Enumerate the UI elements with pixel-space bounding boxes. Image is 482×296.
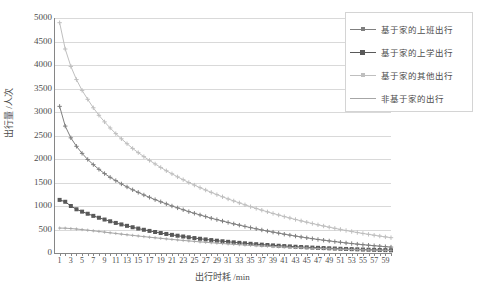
series-marker (198, 185, 202, 189)
series-marker (164, 232, 168, 236)
x-tick-mark (166, 253, 167, 256)
series-marker (75, 227, 78, 230)
x-tick-label: 59 (381, 256, 389, 266)
series-marker (232, 222, 236, 226)
x-tick-mark (296, 253, 297, 256)
legend-item-0[interactable]: 基于家的上班出行 (350, 18, 468, 41)
x-tick-mark (178, 253, 179, 256)
x-tick-mark (273, 253, 274, 256)
series-marker (254, 227, 258, 231)
series-marker (260, 228, 264, 232)
series-marker (154, 236, 157, 239)
x-tick-label: 9 (103, 256, 107, 266)
x-tick-mark (324, 253, 325, 256)
series-marker (361, 231, 365, 235)
series-marker (187, 235, 191, 239)
x-tick-mark (116, 253, 117, 256)
y-axis-ticks: 0500100015002000250030003500400045005000 (8, 0, 52, 296)
chart-legend: 基于家的上班出行基于家的上学出行基于家的其他出行非基于家的出行 (345, 12, 473, 112)
x-tick-mark (245, 253, 246, 256)
x-tick-label: 27 (202, 256, 210, 266)
x-tick-mark (262, 253, 263, 256)
series-marker (237, 201, 241, 205)
x-tick-mark (239, 253, 240, 256)
x-axis-ticks: 1357911131517192123252729313335373941434… (54, 256, 391, 270)
legend-item-3[interactable]: 非基于家的出行 (350, 87, 468, 110)
x-tick-mark (127, 253, 128, 256)
series-marker (148, 236, 151, 239)
series-marker (170, 204, 174, 208)
x-tick-label: 31 (224, 256, 232, 266)
series-marker (203, 214, 207, 218)
legend-label: 非基于家的出行 (381, 94, 444, 104)
x-tick-mark (301, 253, 302, 256)
series-marker (305, 220, 309, 224)
series-marker (164, 169, 168, 173)
x-tick-mark (161, 253, 162, 256)
x-tick-mark (206, 253, 207, 256)
series-marker (355, 230, 359, 234)
series-marker (131, 225, 135, 229)
legend-label: 基于家的上学出行 (381, 48, 453, 58)
series-marker (243, 203, 247, 207)
x-tick-mark (346, 253, 347, 256)
series-marker (305, 236, 309, 240)
x-tick-label: 13 (123, 256, 131, 266)
series-marker (170, 172, 174, 176)
x-tick-mark (211, 253, 212, 256)
series-marker (159, 231, 163, 235)
legend-item-1[interactable]: 基于家的上学出行 (350, 41, 468, 64)
x-tick-mark (172, 253, 173, 256)
y-axis-line (54, 18, 55, 253)
legend-item-2[interactable]: 基于家的其他出行 (350, 64, 468, 87)
series-marker (69, 227, 72, 230)
x-tick-mark (155, 253, 156, 256)
series-marker (103, 218, 107, 222)
series-marker (91, 214, 95, 218)
x-tick-label: 53 (348, 256, 356, 266)
series-canvas (54, 18, 391, 253)
x-tick-mark (133, 253, 134, 256)
series-marker (265, 210, 269, 214)
series-marker (130, 188, 134, 192)
chart-container: 0500100015002000250030003500400045005000… (0, 0, 482, 296)
series-marker (114, 178, 118, 182)
series-marker (338, 240, 342, 244)
series-marker (321, 238, 325, 242)
series-marker (248, 204, 252, 208)
series-marker (187, 180, 191, 184)
series-marker (125, 233, 128, 236)
series-marker (153, 230, 157, 234)
x-tick-label: 7 (91, 256, 95, 266)
series-marker (248, 225, 252, 229)
series-marker (338, 227, 342, 231)
legend-swatch-icon (350, 94, 376, 104)
plot-area (54, 18, 391, 253)
x-tick-mark (329, 253, 330, 256)
x-tick-mark (363, 253, 364, 256)
series-marker (125, 224, 129, 228)
series-marker (220, 219, 224, 223)
series-marker (164, 202, 168, 206)
y-tick-label: 2000 (14, 154, 52, 163)
series-marker (366, 243, 370, 247)
x-tick-label: 23 (179, 256, 187, 266)
series-marker (181, 235, 185, 239)
series-marker (63, 200, 67, 204)
y-tick-label: 1000 (14, 201, 52, 210)
series-marker (310, 236, 314, 240)
series-marker (288, 233, 292, 237)
x-tick-mark (318, 253, 319, 256)
y-tick-label: 2500 (14, 131, 52, 140)
series-marker (254, 206, 258, 210)
series-marker (282, 232, 286, 236)
series-marker (57, 21, 61, 25)
x-tick-mark (357, 253, 358, 256)
x-tick-label: 45 (303, 256, 311, 266)
y-tick-label: 3500 (14, 84, 52, 93)
x-tick-label: 57 (370, 256, 378, 266)
x-tick-label: 35 (247, 256, 255, 266)
y-tick-label: 0 (14, 248, 52, 257)
x-tick-label: 47 (314, 256, 322, 266)
x-tick-mark (234, 253, 235, 256)
